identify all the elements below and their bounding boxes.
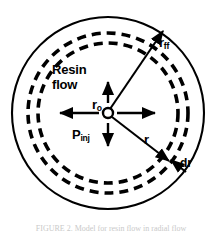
p-inj-subscript: inj [80, 133, 89, 143]
label-resin-flow: Resin flow [52, 63, 86, 91]
label-p-inj: Pinj [72, 128, 90, 141]
label-r-o: ro [92, 98, 102, 111]
injection-gate-circle [103, 108, 113, 118]
resin-flow-line-1: Resin [52, 62, 86, 77]
label-dr: dr [180, 157, 192, 169]
figure-caption: FIGURE 2. Model for resin flow in radial… [0, 224, 222, 232]
radial-flow-figure: Resin flow rff ro Pinj r dr FIGURE 2. Mo… [0, 0, 222, 232]
label-r: r [144, 133, 149, 146]
r-leader-arrow [112, 117, 169, 161]
r-ff-subscript: ff [164, 41, 169, 51]
resin-flow-line-2: flow [52, 78, 86, 91]
r-o-subscript: o [97, 103, 102, 113]
radial-flow-diagram [0, 0, 222, 232]
label-r-ff: rff [159, 36, 169, 49]
r-ff-leader-arrow [110, 31, 163, 109]
